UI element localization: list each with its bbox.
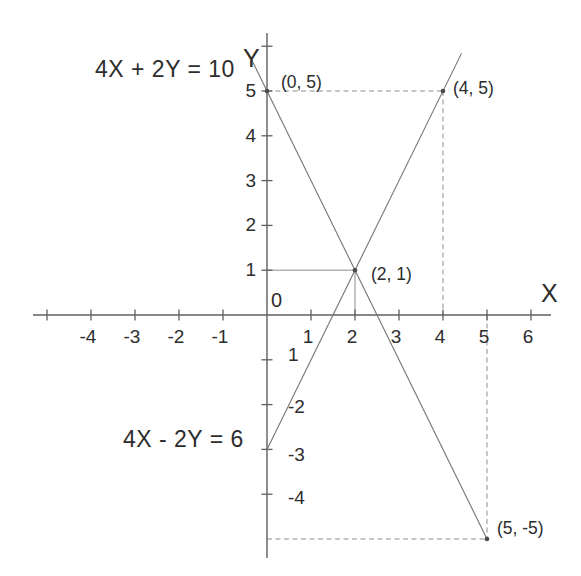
x-tick-label: 3 <box>391 326 402 347</box>
x-axis-title: X <box>541 279 558 307</box>
x-tick-label: 6 <box>523 326 534 347</box>
y-tick-label-left: 1 <box>245 259 256 280</box>
simultaneous-equations-graph: (0, 5)(4, 5)(2, 1)(5, -5)-4-3-2-11234565… <box>0 0 581 576</box>
scanned-graph-page: (0, 5)(4, 5)(2, 1)(5, -5)-4-3-2-11234565… <box>0 0 581 576</box>
y-tick-label-left: 5 <box>245 80 256 101</box>
equation-line-1 <box>248 52 487 539</box>
y-tick-label-right: -3 <box>288 444 305 465</box>
point-label: (5, -5) <box>497 518 544 538</box>
data-point <box>353 268 358 273</box>
equation-label-top: 4X + 2Y = 10 <box>95 56 235 82</box>
y-axis-title: Y <box>243 44 260 72</box>
x-tick-label: 2 <box>347 326 358 347</box>
point-label: (4, 5) <box>453 78 494 98</box>
x-tick-label: -2 <box>168 326 185 347</box>
data-point <box>265 89 270 94</box>
data-point <box>485 537 490 542</box>
equation-label-bottom: 4X - 2Y = 6 <box>123 426 244 452</box>
y-tick-label-left: 4 <box>245 125 256 146</box>
origin-label: 0 <box>271 289 282 311</box>
point-label: (0, 5) <box>281 72 322 92</box>
data-point <box>441 89 446 94</box>
y-tick-label-left: 3 <box>245 170 256 191</box>
equation-line-2 <box>267 53 461 449</box>
x-tick-label: -1 <box>212 326 229 347</box>
x-tick-label: -4 <box>80 326 97 347</box>
x-tick-label: 1 <box>303 326 314 347</box>
x-tick-label: -3 <box>124 326 141 347</box>
y-tick-label-right: 1 <box>288 344 299 365</box>
y-tick-label-right: -4 <box>288 487 305 508</box>
x-tick-label: 5 <box>479 326 490 347</box>
y-tick-label-left: 2 <box>245 214 256 235</box>
y-tick-label-right: -2 <box>288 396 305 417</box>
point-label: (2, 1) <box>371 264 412 284</box>
x-tick-label: 4 <box>435 326 446 347</box>
